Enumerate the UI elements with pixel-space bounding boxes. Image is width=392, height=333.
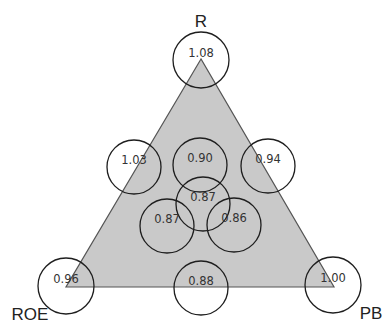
- node-value: 1.00: [320, 271, 346, 285]
- node-value: 0.86: [221, 211, 247, 225]
- node-value: 0.96: [53, 272, 79, 286]
- vertex-label-r: R: [195, 12, 207, 31]
- node-value: 1.08: [188, 46, 214, 60]
- node-value: 0.87: [154, 212, 180, 226]
- node-value: 0.87: [190, 190, 216, 204]
- node-value: 0.90: [187, 151, 213, 165]
- vertex-label-pb: PB: [360, 304, 383, 323]
- vertex-label-roe: ROE: [12, 305, 49, 324]
- node-value: 0.94: [255, 152, 281, 166]
- ternary-diagram: 1.081.030.900.940.870.870.860.960.881.00…: [0, 0, 392, 333]
- node-value: 1.03: [121, 153, 147, 167]
- node-value: 0.88: [188, 274, 214, 288]
